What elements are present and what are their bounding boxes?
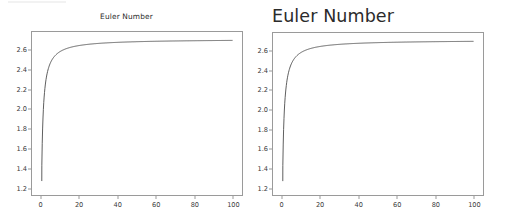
- x-axis-tick-mark: [233, 196, 234, 199]
- x-axis-tick-mark: [79, 196, 80, 199]
- x-axis-tick-label: 80: [432, 201, 440, 209]
- x-axis-tick-label: 60: [152, 201, 160, 209]
- y-axis-tick-label: 2.4: [7, 66, 27, 74]
- y-axis-tick-mark: [28, 69, 31, 70]
- y-axis-tick-mark: [269, 50, 272, 51]
- x-axis-tick-label: 100: [468, 201, 481, 209]
- plot-area-left: [31, 31, 243, 196]
- y-axis-tick-mark: [269, 169, 272, 170]
- y-axis-tick-label: 2.0: [7, 105, 27, 113]
- x-axis-tick-label: 0: [38, 201, 42, 209]
- y-axis-tick-mark: [269, 70, 272, 71]
- y-axis-tick-mark: [28, 149, 31, 150]
- x-axis-tick-mark: [320, 196, 321, 199]
- chart-panel-left: Euler Number 1.21.41.61.82.02.22.42.6020…: [0, 0, 253, 222]
- y-axis-tick-label: 1.6: [7, 145, 27, 153]
- x-axis-tick-label: 100: [227, 201, 240, 209]
- y-axis-tick-label: 2.4: [248, 67, 268, 75]
- figure-canvas: Euler Number 1.21.41.61.82.02.22.42.6020…: [0, 0, 506, 222]
- x-axis-tick-mark: [281, 196, 282, 199]
- y-axis-tick-label: 1.2: [248, 185, 268, 193]
- y-axis-tick-mark: [269, 129, 272, 130]
- y-axis-tick-label: 1.8: [248, 126, 268, 134]
- y-axis-tick-mark: [28, 109, 31, 110]
- x-axis-tick-label: 40: [114, 201, 122, 209]
- x-axis-tick-label: 0: [279, 201, 283, 209]
- x-axis-tick-mark: [358, 196, 359, 199]
- y-axis-tick-mark: [269, 188, 272, 189]
- y-axis-tick-label: 1.2: [7, 185, 27, 193]
- y-axis-tick-label: 1.4: [248, 165, 268, 173]
- x-axis-tick-mark: [117, 196, 118, 199]
- x-axis-tick-label: 40: [355, 201, 363, 209]
- y-axis-tick-mark: [269, 149, 272, 150]
- x-axis-tick-mark: [156, 196, 157, 199]
- x-axis-tick-label: 20: [316, 201, 324, 209]
- x-axis-tick-mark: [397, 196, 398, 199]
- y-axis-tick-mark: [269, 90, 272, 91]
- x-axis-tick-label: 80: [191, 201, 199, 209]
- plot-area-right: [272, 32, 484, 196]
- x-axis-tick-mark: [474, 196, 475, 199]
- y-axis-tick-label: 1.6: [248, 145, 268, 153]
- y-axis-tick-mark: [28, 168, 31, 169]
- x-axis-tick-label: 60: [393, 201, 401, 209]
- chart-panel-right: Euler Number 1.21.41.61.82.02.22.42.6020…: [253, 0, 506, 222]
- y-axis-tick-mark: [28, 89, 31, 90]
- y-axis-tick-label: 2.2: [248, 86, 268, 94]
- y-axis-tick-label: 1.8: [7, 125, 27, 133]
- y-axis-tick-mark: [28, 188, 31, 189]
- y-axis-tick-label: 2.6: [7, 46, 27, 54]
- euler-curve-left: [32, 32, 242, 195]
- y-axis-tick-mark: [28, 49, 31, 50]
- y-axis-tick-mark: [28, 129, 31, 130]
- x-axis-tick-mark: [194, 196, 195, 199]
- y-axis-tick-label: 2.2: [7, 86, 27, 94]
- y-axis-tick-label: 2.6: [248, 47, 268, 55]
- chart-title-right: Euler Number: [272, 8, 394, 26]
- x-axis-tick-mark: [40, 196, 41, 199]
- chart-title-left: Euler Number: [0, 13, 253, 20]
- y-axis-tick-label: 2.0: [248, 106, 268, 114]
- x-axis-tick-mark: [435, 196, 436, 199]
- euler-curve-right: [273, 33, 483, 195]
- y-axis-tick-mark: [269, 109, 272, 110]
- x-axis-tick-label: 20: [75, 201, 83, 209]
- y-axis-tick-label: 1.4: [7, 165, 27, 173]
